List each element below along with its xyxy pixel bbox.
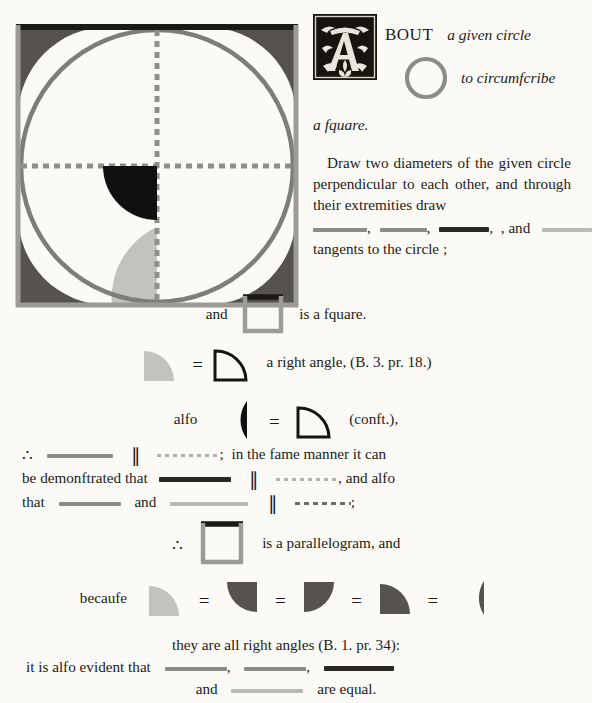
equals-d: = — [426, 591, 441, 610]
equals-c: = — [349, 591, 364, 610]
closing-comma-1: , — [227, 658, 231, 675]
dotted-line-a — [157, 454, 219, 457]
black-quarter-icon — [213, 398, 255, 444]
because-label: becaufe — [80, 589, 127, 606]
that-text: that — [22, 493, 45, 510]
main-diagram — [13, 22, 303, 314]
small-square-icon — [241, 293, 285, 339]
parallel-statements-block: ∴ ∥ ; in the fame manner it can be demon… — [22, 442, 560, 514]
is-a-square-label: is a fquare. — [299, 305, 366, 322]
quarter-dark-2 — [298, 578, 340, 622]
closing-and: and — [196, 680, 218, 697]
circumscribed-square-svg — [13, 22, 303, 314]
and-text: , and — [501, 219, 531, 236]
comma-2: , — [427, 219, 431, 236]
comma-3: , — [489, 219, 493, 236]
also-label: alfo — [174, 410, 198, 427]
semicolon-2: ; — [351, 493, 355, 510]
closing-segment-4 — [231, 689, 303, 693]
segment-mid-gray-1 — [313, 228, 367, 232]
tangents-line: tangents to the circle ; — [313, 238, 571, 259]
intro-block: BOUT a given circle to circumfcribe a fq… — [313, 12, 569, 132]
const-label: (conft.), — [349, 410, 398, 427]
right-angle-row: = a right angle, (B. 3. pr. 18.) — [0, 340, 572, 388]
equals-b: = — [273, 591, 288, 610]
parallel-line-2: be demonftrated that ∥ , and alfo — [22, 466, 560, 490]
also-evident-text: it is alfo evident that — [26, 658, 151, 675]
parallelogram-text: is a parallelogram, and — [262, 534, 400, 551]
segment-light-c — [170, 502, 248, 506]
equals-sign-2: = — [267, 412, 282, 431]
segment-mid-gray-2 — [380, 228, 427, 232]
ornate-initial-A-icon — [313, 14, 377, 80]
small-square-icon-2 — [198, 520, 246, 570]
because-row: becaufe = = = = — [0, 578, 572, 622]
and-text-2: and — [134, 493, 156, 510]
equals-sign-1: = — [190, 355, 205, 374]
segment-mid-c — [59, 502, 121, 506]
closing-segment-1 — [165, 667, 227, 671]
right-angle-text: a right angle, (B. 3. pr. 18.) — [267, 353, 432, 370]
body-paragraph-block: Draw two diameters of the given circle p… — [313, 152, 571, 259]
parallelogram-row: ∴ is a parallelogram, and — [0, 520, 572, 570]
segment-black-b — [159, 477, 231, 482]
quarter-light-gray — [145, 578, 187, 622]
closing-segment-2 — [244, 667, 306, 671]
outline-quarter-icon-1 — [209, 340, 257, 388]
parallel-sign-3: ∥ — [268, 494, 277, 513]
equals-a: = — [197, 591, 212, 610]
outline-quarter-icon-2 — [292, 397, 340, 445]
be-demonstrated-text: be demonftrated that — [22, 469, 148, 486]
therefore-2: ∴ — [172, 537, 183, 554]
quarter-dark-4 — [450, 578, 492, 622]
square-statement-row: and is a fquare. — [0, 293, 572, 339]
segment-mid-a — [47, 454, 113, 458]
segment-black — [439, 227, 489, 232]
also-row: alfo = (conft.), — [0, 397, 572, 445]
closing-line-2: it is alfo evident that , , — [26, 658, 572, 676]
black-center-sector — [103, 166, 157, 220]
segments-row: , , , , and — [313, 217, 571, 238]
all-right-angles-text: they are all right angles (B. 1. pr. 34)… — [172, 636, 400, 653]
are-equal-text: are equal. — [317, 680, 376, 697]
parallel-sign-1: ∥ — [131, 446, 140, 465]
parallel-line-3: that and ∥ ; — [22, 490, 560, 514]
and-also-text: , and alfo — [338, 469, 395, 486]
closing-line-3: and are equal. — [0, 680, 572, 698]
segment-light-gray — [542, 228, 592, 232]
body-paragraph: Draw two diameters of the given circle p… — [313, 152, 571, 215]
therefore-1: ∴ — [22, 447, 33, 464]
dashed-line-c — [295, 502, 351, 505]
and-label: and — [206, 305, 228, 322]
intro-line-3: a fquare. — [313, 104, 569, 133]
closing-comma-2: , — [306, 658, 310, 675]
open-circle-icon — [403, 55, 449, 104]
light-gray-quarter-icon — [140, 341, 186, 387]
same-manner-text: in the fame manner it can — [231, 445, 386, 462]
closing-segment-3 — [324, 666, 394, 671]
quarter-dark-3 — [374, 578, 416, 622]
parallel-line-1: ∴ ∥ ; in the fame manner it can — [22, 442, 560, 466]
semicolon-1: ; — [219, 445, 223, 462]
parallel-sign-2: ∥ — [249, 470, 258, 489]
comma-1: , — [367, 219, 371, 236]
dotted-line-b — [276, 478, 338, 481]
quarter-dark-1 — [221, 578, 263, 622]
closing-line-1: they are all right angles (B. 1. pr. 34)… — [0, 636, 572, 654]
